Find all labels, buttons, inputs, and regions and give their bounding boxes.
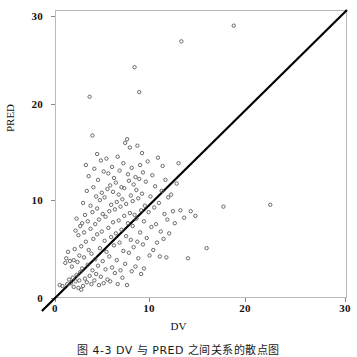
- y-tick-label-10: 10: [31, 194, 43, 206]
- scatter-points: [55, 10, 347, 298]
- y-axis-tick-labels: 30 20 10 0: [0, 10, 51, 298]
- y-tick-label-20: 20: [31, 98, 43, 110]
- x-axis-label: DV: [0, 320, 357, 332]
- plot-area: [55, 10, 347, 298]
- x-tick-label-0: 0: [52, 302, 58, 314]
- y-tick-label-0: 0: [37, 292, 43, 304]
- x-tick-label-30: 30: [339, 302, 351, 314]
- y-axis-label: PRED: [4, 88, 16, 148]
- y-tick-label-30: 30: [31, 10, 43, 22]
- x-tick-label-10: 10: [143, 302, 155, 314]
- x-tick-label-20: 20: [239, 302, 251, 314]
- figure-caption: 图 4-3 DV 与 PRED 之间关系的散点图: [0, 341, 357, 357]
